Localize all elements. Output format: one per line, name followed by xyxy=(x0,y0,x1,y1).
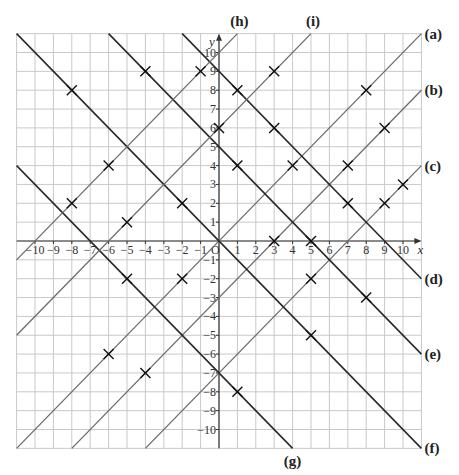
y-tick-label: 8 xyxy=(210,83,216,97)
coordinate-grid-chart: xyO−10−9−8−7−6−5−4−3−2−112345678910−10−9… xyxy=(0,0,459,475)
x-tick-label: −10 xyxy=(26,243,45,257)
y-tick-label: 1 xyxy=(210,215,216,229)
line-label-d: (d) xyxy=(424,271,442,288)
x-axis-label: x xyxy=(416,242,423,257)
x-tick-label: −3 xyxy=(157,243,170,257)
x-tick-label: 5 xyxy=(308,243,314,257)
x-tick-label: 6 xyxy=(326,243,332,257)
line-label-f: (f) xyxy=(424,440,439,457)
y-tick-label: −9 xyxy=(203,404,216,418)
y-axis-arrow-icon xyxy=(216,34,222,41)
y-tick-label: −2 xyxy=(203,272,216,286)
x-tick-label: 8 xyxy=(363,243,369,257)
line-label-h: (h) xyxy=(230,13,248,30)
x-tick-label: −2 xyxy=(176,243,189,257)
line-label-g: (g) xyxy=(284,453,302,470)
line-label-a: (a) xyxy=(424,26,442,43)
line-label-c: (c) xyxy=(424,158,441,175)
line-label-e: (e) xyxy=(424,346,441,363)
x-tick-label: −8 xyxy=(65,243,78,257)
x-tick-label: 1 xyxy=(234,243,240,257)
y-tick-label: 4 xyxy=(210,159,216,173)
line-label-i: (i) xyxy=(306,13,320,30)
y-tick-label: 2 xyxy=(210,196,216,210)
y-tick-label: −5 xyxy=(203,328,216,342)
x-tick-label: 3 xyxy=(271,243,277,257)
x-tick-label: 7 xyxy=(345,243,351,257)
x-tick-label: −4 xyxy=(139,243,152,257)
y-tick-label: 7 xyxy=(210,102,216,116)
line-label-b: (b) xyxy=(424,82,442,99)
x-tick-label: 4 xyxy=(290,243,296,257)
x-tick-label: −9 xyxy=(47,243,60,257)
x-tick-label: −5 xyxy=(121,243,134,257)
x-tick-label: 9 xyxy=(382,243,388,257)
y-tick-label: −10 xyxy=(197,423,216,437)
x-tick-label: 2 xyxy=(253,243,259,257)
y-tick-label: 3 xyxy=(210,177,216,191)
